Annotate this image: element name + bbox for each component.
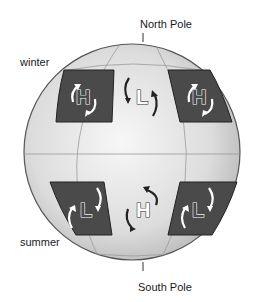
panel-south-right: L [168,182,237,235]
summer-label: summer [20,236,60,248]
north-pole-label: North Pole [140,18,192,30]
low-pressure-symbol: L [136,86,148,108]
panel-north-left: H [56,70,114,122]
winter-label: winter [20,56,49,68]
low-pressure-symbol: L [80,199,92,221]
low-pressure-symbol: L [192,199,204,221]
south-pole-label: South Pole [138,281,192,293]
high-pressure-symbol: H [136,199,150,221]
globe-diagram: H L H L H L [0,0,265,302]
high-pressure-symbol: H [192,86,206,108]
